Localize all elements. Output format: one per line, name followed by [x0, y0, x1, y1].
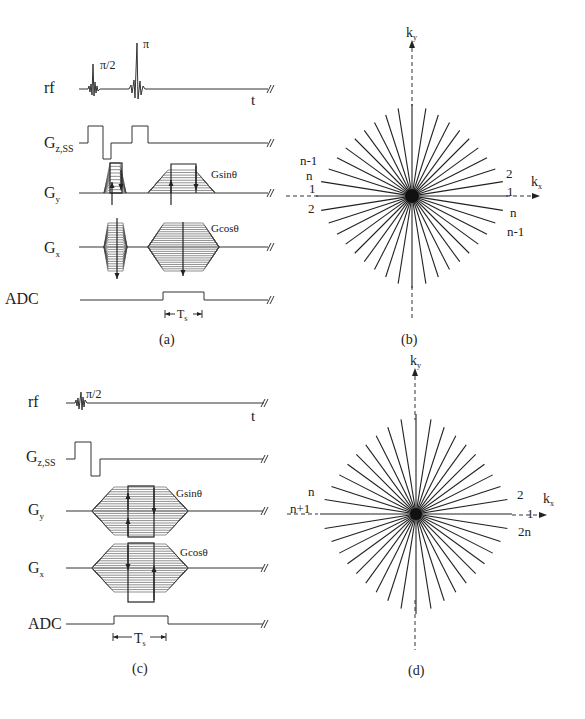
caption-a: (a): [159, 332, 175, 348]
gz-row-label: Gz,SS: [26, 448, 56, 468]
spoke-label-right-1: 1: [527, 506, 534, 521]
gy-annotation: Gsinθ: [211, 168, 237, 180]
gx-waveform: [66, 543, 268, 602]
gy-row-label: Gy: [28, 501, 45, 521]
caption-c: (c): [132, 661, 148, 677]
spoke-label-left-2: 1: [309, 181, 316, 196]
adc-waveform: [66, 616, 268, 641]
kx-arrow-icon: [539, 512, 547, 518]
panel-b-kspace: ky kx n-1 n 1 2 2 1 n n-1 (b): [286, 25, 542, 348]
kx-axis-label: kx: [531, 174, 542, 191]
gx-waveform: [79, 218, 274, 279]
gy-row-label: Gy: [44, 184, 61, 204]
gx-row-label: Gx: [44, 239, 61, 259]
time-axis-label: t: [251, 92, 256, 108]
adc-row-label: ADC: [28, 615, 62, 632]
panel-c-pulse-sequence: rf Gz,SS Gy Gx ADC π/2 t Gsinθ Gcosθ: [26, 387, 268, 677]
rf-pulse-label-90: π/2: [86, 387, 101, 401]
caption-b: (b): [401, 332, 418, 348]
panel-d-kspace: ky kx n n+1 2 1 2n (d): [287, 353, 554, 679]
gx-row-label: Gx: [28, 559, 45, 579]
gy-waveform: [79, 163, 274, 205]
spoke-label-left-1: n+1: [290, 501, 310, 516]
gy-waveform: [66, 486, 268, 537]
spoke-label-left-3: 2: [308, 201, 315, 216]
gx-annotation: Gcosθ: [211, 222, 239, 234]
spoke-label-right-1: 1: [507, 184, 514, 199]
spoke-label-right-2: n: [510, 205, 517, 220]
panel-a-pulse-sequence: rf Gz,SS Gy Gx ADC π/2 π t Gsinθ: [5, 37, 274, 348]
rf-row-label: rf: [28, 393, 39, 410]
gz-waveform: [66, 442, 268, 476]
figure-canvas: rf Gz,SS Gy Gx ADC π/2 π t Gsinθ: [0, 0, 585, 719]
spoke-label-right-0: 2: [517, 487, 524, 502]
adc-row-label: ADC: [5, 290, 39, 307]
break-mark-icon: [267, 85, 274, 93]
kx-arrow-icon: [532, 193, 540, 199]
ky-axis-label: ky: [406, 25, 417, 42]
caption-d: (d): [408, 663, 425, 679]
spoke-label-left-0: n: [308, 484, 315, 499]
gz-waveform: [79, 126, 274, 159]
rf-pulse-label-180: π: [143, 37, 149, 51]
time-axis-label: t: [251, 408, 256, 424]
spoke-label-left-0: n-1: [300, 153, 317, 168]
kspace-center: [410, 508, 422, 520]
kspace-center: [405, 189, 419, 203]
gy-annotation: Gsinθ: [176, 487, 202, 499]
gx-annotation: Gcosθ: [180, 546, 208, 558]
spoke-label-right-0: 2: [506, 166, 513, 181]
spoke-label-right-3: n-1: [507, 224, 524, 239]
spoke-label-right-2: 2n: [518, 524, 532, 539]
gz-row-label: Gz,SS: [44, 134, 74, 154]
ky-axis-label: ky: [410, 353, 421, 370]
kx-axis-label: kx: [543, 491, 554, 508]
rf-pulse-label-90: π/2: [100, 58, 115, 72]
rf-row-label: rf: [44, 79, 55, 96]
